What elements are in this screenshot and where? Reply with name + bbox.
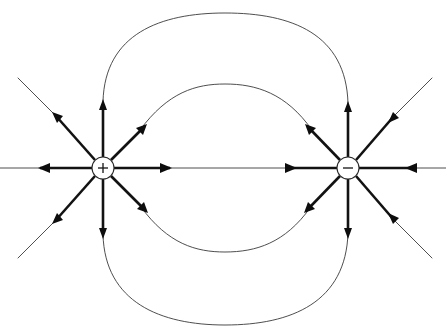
dipole-field-diagram [0, 0, 446, 336]
negative-charge [337, 157, 359, 179]
positive-charge [92, 157, 114, 179]
dipole-svg-canvas [0, 0, 446, 336]
